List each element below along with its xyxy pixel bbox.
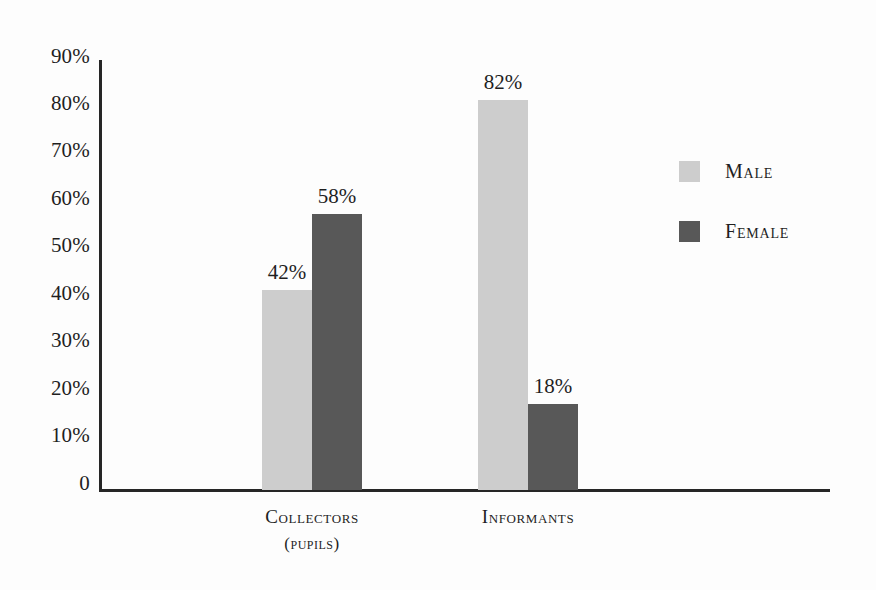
- y-axis-tick-label: 10%: [4, 425, 90, 446]
- category-sublabel-text: (pupils): [182, 530, 442, 557]
- bar-collectors-male: [262, 290, 312, 490]
- y-axis-tick-labels: 90% 80% 70% 60% 50% 40% 30% 20% 10% 0: [0, 0, 90, 590]
- x-axis-category-label-informants: Informants: [398, 503, 658, 530]
- category-label-text: Informants: [482, 506, 575, 527]
- y-axis-tick-label: 30%: [4, 330, 90, 351]
- legend-swatch-male-icon: [679, 161, 700, 182]
- y-axis-tick-label: 40%: [4, 283, 90, 304]
- y-axis-tick-label: 0: [4, 473, 90, 494]
- chart-legend: Male Female: [679, 160, 789, 280]
- bar-value-label-informants-female: 18%: [508, 376, 598, 397]
- bar-informants-male: [478, 100, 528, 490]
- bar-collectors-female: [312, 214, 362, 490]
- legend-item-male: Male: [679, 160, 789, 182]
- legend-item-female: Female: [679, 220, 789, 242]
- y-axis-tick-label: 70%: [4, 140, 90, 161]
- legend-swatch-female-icon: [679, 221, 700, 242]
- legend-label-male: Male: [725, 160, 773, 183]
- bar-value-label-collectors-female: 58%: [292, 186, 382, 207]
- y-axis-tick-label: 90%: [4, 46, 90, 67]
- bar-informants-female: [528, 404, 578, 490]
- y-axis-tick-label: 60%: [4, 188, 90, 209]
- category-label-text: Collectors: [265, 506, 359, 527]
- bar-value-label-informants-male: 82%: [458, 72, 548, 93]
- y-axis-tick-label: 20%: [4, 378, 90, 399]
- y-axis-tick-label: 80%: [4, 93, 90, 114]
- bar-value-label-collectors-male: 42%: [242, 262, 332, 283]
- bar-chart-figure: 90% 80% 70% 60% 50% 40% 30% 20% 10% 0 42…: [0, 0, 876, 590]
- legend-label-female: Female: [725, 220, 789, 243]
- y-axis-tick-label: 50%: [4, 235, 90, 256]
